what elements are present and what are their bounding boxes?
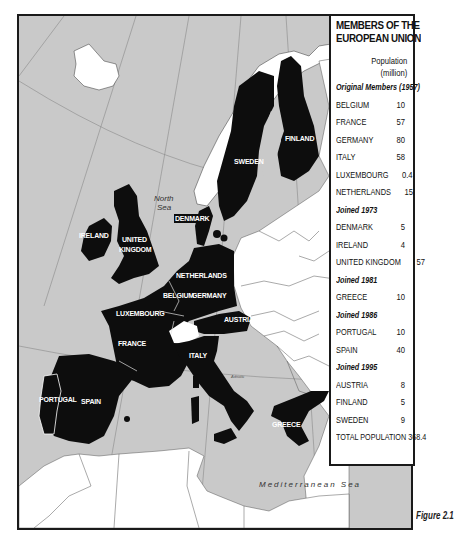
- legend-row: ITALY58: [336, 149, 409, 167]
- group-label: Joined 1995: [336, 359, 398, 377]
- country-name: AUSTRIA: [336, 377, 368, 395]
- country-population: 5: [401, 219, 405, 237]
- legend-panel: MEMBERS OF THE EUROPEAN UNION Population…: [329, 14, 415, 466]
- label-belgium: BELGIUM: [163, 292, 194, 299]
- greece: [271, 391, 329, 446]
- country-name: SWEDEN: [336, 412, 368, 430]
- country-name: BELGIUM: [336, 97, 369, 115]
- legend-row: GREECE10: [336, 289, 409, 307]
- legend-row: PORTUGAL10: [336, 324, 409, 342]
- italy: [174, 336, 254, 431]
- label-germany: GERMANY: [192, 292, 227, 299]
- country-name: DENMARK: [336, 219, 373, 237]
- country-population: 58: [396, 149, 405, 167]
- population-header: Population (million): [347, 55, 409, 79]
- label-denmark: DENMARK: [175, 215, 210, 222]
- legend-row: GERMANY80: [336, 132, 409, 150]
- country-population: 40: [396, 342, 405, 360]
- legend-row: AUSTRIA8: [336, 377, 409, 395]
- finland: [277, 56, 319, 181]
- country-name: GREECE: [336, 289, 367, 307]
- legend-row: UNITED KINGDOM57: [336, 254, 409, 272]
- label-austria: AUSTRIA: [224, 316, 254, 323]
- country-population: 57: [417, 254, 426, 272]
- label-portugal: PORTUGAL: [39, 396, 78, 403]
- total-population: TOTAL POPULATION 368.4: [336, 429, 394, 447]
- country-population: 80: [396, 132, 405, 150]
- country-name: NETHERLANDS: [336, 184, 391, 202]
- country-population: 10: [396, 97, 405, 115]
- figure-caption: Figure 2.1: [416, 510, 454, 521]
- label-north-sea-line2: Sea: [157, 203, 172, 212]
- label-adriatic: Adriatic: [230, 374, 244, 379]
- group-label: Joined 1981: [336, 272, 398, 290]
- group-label: Joined 1986: [336, 307, 398, 325]
- label-uk-line2: KINGDOM: [119, 246, 152, 253]
- legend-row: NETHERLANDS15: [336, 184, 409, 202]
- legend-row: IRELAND4: [336, 237, 409, 255]
- legend-row: FRANCE57: [336, 114, 409, 132]
- label-north-sea-line1: North: [154, 194, 174, 203]
- label-italy: ITALY: [189, 352, 208, 359]
- legend-title-line2: EUROPEAN UNION: [336, 32, 398, 45]
- country-population: 5: [401, 394, 405, 412]
- country-name: LUXEMBOURG: [336, 167, 388, 185]
- label-finland: FINLAND: [285, 135, 314, 142]
- label-luxembourg: LUXEMBOURG: [116, 310, 165, 317]
- country-population: 8: [401, 377, 405, 395]
- legend-row: DENMARK5: [336, 219, 409, 237]
- ireland: [81, 218, 112, 261]
- country-population: 10: [396, 289, 405, 307]
- label-uk-line1: UNITED: [122, 236, 147, 243]
- legend-row: FINLAND5: [336, 394, 409, 412]
- iceland: [74, 44, 119, 90]
- legend-row: LUXEMBOURG0.4: [336, 167, 409, 185]
- label-spain: SPAIN: [81, 398, 101, 405]
- country-name: FRANCE: [336, 114, 366, 132]
- country-population: 10: [396, 324, 405, 342]
- great-britain: [111, 184, 159, 284]
- label-netherlands: NETHERLANDS: [176, 272, 227, 279]
- legend-row: SWEDEN9: [336, 412, 409, 430]
- sicily: [214, 428, 237, 444]
- country-name: PORTUGAL: [336, 324, 376, 342]
- corsica: [193, 374, 199, 388]
- country-population: 57: [396, 114, 405, 132]
- country-name: UNITED KINGDOM: [336, 254, 401, 272]
- country-population: 4: [401, 237, 405, 255]
- legend-title-line1: MEMBERS OF THE: [336, 19, 398, 32]
- country-name: IRELAND: [336, 237, 368, 255]
- legend-row: BELGIUM10: [336, 97, 409, 115]
- label-france: FRANCE: [118, 340, 146, 347]
- label-mediterranean: Mediterranean Sea: [259, 480, 361, 489]
- label-ireland: IRELAND: [79, 232, 109, 239]
- country-population: 0.4: [402, 167, 413, 185]
- country-name: GERMANY: [336, 132, 373, 150]
- legend-row: SPAIN40: [336, 342, 409, 360]
- country-population: 9: [401, 412, 405, 430]
- group-label: Joined 1973: [336, 202, 398, 220]
- label-sweden: SWEDEN: [234, 158, 264, 165]
- country-name: FINLAND: [336, 394, 368, 412]
- country-name: ITALY: [336, 149, 355, 167]
- label-greece: GREECE: [272, 421, 301, 428]
- population-header-line2: (million): [347, 67, 407, 79]
- group-label: Original Members (1957): [336, 79, 398, 97]
- denmark: [195, 206, 213, 246]
- country-name: SPAIN: [336, 342, 358, 360]
- sardinia: [191, 396, 199, 424]
- population-header-line1: Population: [347, 55, 407, 67]
- country-population: 15: [405, 184, 414, 202]
